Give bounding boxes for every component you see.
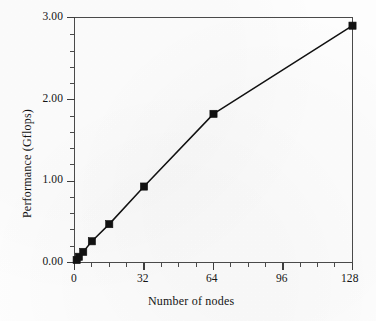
data-point-marker: [106, 221, 113, 228]
series-markers: [73, 22, 356, 264]
x-tick-label-128: 128: [341, 272, 359, 284]
series-line: [77, 26, 353, 260]
data-point-marker: [140, 183, 147, 190]
data-point-marker: [349, 22, 356, 29]
x-major-ticks: [75, 263, 353, 271]
x-tick-label-96: 96: [276, 272, 288, 284]
chart-figure: 3.00 2.00 1.00 0.00 0 32 64 96 128 Perfo…: [0, 0, 376, 321]
y-axis-title: Performance (Gflops): [20, 109, 35, 218]
plot-canvas: [0, 0, 376, 321]
x-tick-label-64: 64: [206, 272, 218, 284]
x-tick-label-32: 32: [137, 272, 149, 284]
data-point-marker: [210, 110, 217, 117]
x-axis-title: Number of nodes: [148, 294, 234, 309]
data-point-marker: [80, 248, 87, 255]
y-tick-label-2: 2.00: [42, 92, 63, 104]
y-tick-label-1: 1.00: [42, 173, 63, 185]
data-point-marker: [88, 238, 95, 245]
y-tick-label-3: 3.00: [42, 10, 63, 22]
x-tick-label-0: 0: [71, 272, 77, 284]
axis-frame: [75, 18, 353, 263]
y-tick-label-0: 0.00: [42, 255, 63, 267]
y-major-ticks: [67, 18, 75, 263]
y-minor-ticks: [70, 35, 75, 247]
